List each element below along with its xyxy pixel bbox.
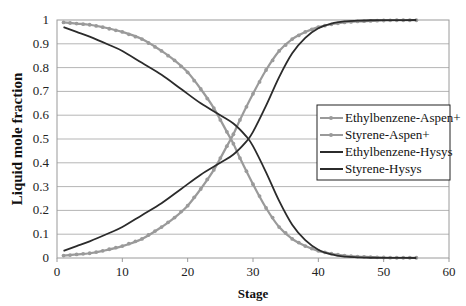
data-point-marker — [245, 105, 249, 109]
y-tick-label: 0.7 — [33, 83, 50, 98]
legend-marker-icon — [329, 133, 333, 137]
data-point-marker — [101, 249, 105, 253]
data-point-marker — [94, 250, 98, 254]
data-point-marker — [147, 233, 151, 237]
data-point-marker — [205, 97, 209, 101]
data-point-marker — [238, 156, 242, 160]
x-tick-label: 50 — [377, 264, 390, 279]
x-tick-label: 40 — [312, 264, 325, 279]
data-point-marker — [68, 21, 72, 25]
y-tick-label: 0.2 — [33, 202, 49, 217]
data-point-marker — [160, 49, 164, 53]
data-point-marker — [75, 22, 79, 26]
data-point-marker — [179, 210, 183, 214]
y-tick-label: 0.9 — [33, 36, 49, 51]
data-point-marker — [186, 204, 190, 208]
x-tick-label: 10 — [116, 264, 129, 279]
data-point-marker — [75, 253, 79, 257]
data-point-marker — [179, 65, 183, 69]
y-tick-label: 0.3 — [33, 179, 49, 194]
data-point-marker — [166, 220, 170, 224]
data-point-marker — [114, 28, 118, 32]
data-point-marker — [62, 20, 66, 24]
data-point-marker — [153, 45, 157, 49]
data-point-marker — [303, 30, 307, 34]
y-tick-label: 0.4 — [33, 155, 50, 170]
data-point-marker — [166, 54, 170, 58]
data-point-marker — [127, 32, 131, 36]
data-point-marker — [284, 43, 288, 47]
data-point-marker — [218, 118, 222, 122]
data-point-marker — [81, 22, 85, 26]
data-point-marker — [153, 229, 157, 233]
data-point-marker — [192, 79, 196, 83]
data-point-marker — [212, 168, 216, 172]
data-point-marker — [284, 231, 288, 235]
data-point-marker — [271, 59, 275, 63]
legend-marker-icon — [329, 116, 333, 120]
data-point-marker — [225, 144, 229, 148]
data-point-marker — [199, 87, 203, 91]
x-tick-label: 0 — [54, 264, 61, 279]
data-point-marker — [258, 194, 262, 198]
data-point-marker — [205, 178, 209, 182]
legend-label: Styrene-Aspen+ — [345, 127, 430, 142]
y-tick-label: 0.1 — [33, 226, 49, 241]
data-point-marker — [212, 106, 216, 110]
data-point-marker — [114, 246, 118, 250]
data-point-marker — [173, 59, 177, 63]
data-point-marker — [127, 242, 131, 246]
data-point-marker — [264, 68, 268, 72]
data-point-marker — [88, 251, 92, 255]
y-axis-title: Liquid mole fraction — [9, 72, 25, 205]
legend-label: Styrene-Hysys — [345, 161, 422, 176]
data-point-marker — [277, 225, 281, 229]
data-point-marker — [81, 252, 85, 256]
data-point-marker — [218, 156, 222, 160]
data-point-marker — [225, 130, 229, 134]
data-point-marker — [258, 80, 262, 84]
y-axis-ticks: 00.10.20.30.40.50.60.70.80.91 — [33, 12, 50, 265]
data-point-marker — [232, 142, 236, 146]
y-tick-label: 0 — [43, 250, 50, 265]
data-point-marker — [94, 24, 98, 28]
data-point-marker — [277, 49, 281, 53]
data-point-marker — [107, 247, 111, 251]
data-point-marker — [297, 34, 301, 38]
data-point-marker — [297, 241, 301, 245]
data-point-marker — [120, 244, 124, 248]
y-tick-label: 0.5 — [33, 131, 49, 146]
data-point-marker — [232, 132, 236, 136]
data-point-marker — [140, 37, 144, 41]
data-point-marker — [140, 237, 144, 241]
data-point-marker — [264, 206, 268, 210]
data-point-marker — [290, 237, 294, 241]
x-axis-title: Stage — [238, 286, 269, 301]
y-tick-label: 1 — [43, 12, 50, 27]
data-point-marker — [173, 216, 177, 220]
data-point-marker — [101, 25, 105, 29]
data-point-marker — [192, 195, 196, 199]
data-point-marker — [251, 182, 255, 186]
data-point-marker — [238, 118, 242, 122]
data-point-marker — [68, 253, 72, 257]
legend-label: Ethylbenzene-Hysys — [345, 144, 453, 159]
data-point-marker — [251, 92, 255, 96]
x-tick-label: 20 — [181, 264, 194, 279]
y-tick-label: 0.8 — [33, 60, 49, 75]
data-point-marker — [160, 225, 164, 229]
data-point-marker — [245, 169, 249, 173]
data-point-marker — [303, 244, 307, 248]
data-point-marker — [120, 30, 124, 34]
data-point-marker — [147, 41, 151, 45]
x-tick-label: 60 — [443, 264, 456, 279]
x-axis-ticks: 0102030405060 — [54, 258, 456, 279]
data-point-marker — [199, 187, 203, 191]
y-tick-label: 0.6 — [33, 107, 50, 122]
data-point-marker — [62, 254, 66, 258]
legend: Ethylbenzene-Aspen+Styrene-Aspen+Ethylbe… — [317, 105, 461, 180]
data-point-marker — [134, 35, 138, 39]
line-chart: 00.10.20.30.40.50.60.70.80.91 0102030405… — [0, 0, 466, 306]
data-point-marker — [88, 23, 92, 27]
data-point-marker — [290, 37, 294, 41]
